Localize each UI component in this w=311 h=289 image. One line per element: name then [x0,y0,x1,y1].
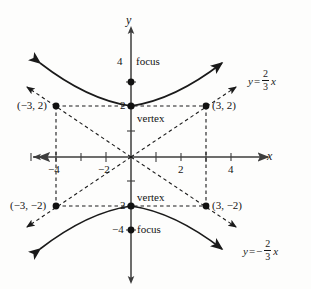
point-focus-top [128,79,135,86]
point-corner-top-left [53,103,60,110]
asymptote-equals-negative: = [249,245,255,257]
point-corner-bottom-left [53,203,60,210]
asymptote-label-positive: y = 2 3 x [248,69,276,92]
x-axis-label: x [267,150,272,162]
asymptote-lhs-negative: y [243,245,248,257]
point-label-3-minus2: (3, −2) [212,200,242,211]
asymptote-fraction-positive: 2 3 [262,69,269,92]
point-vertex-bottom [127,202,134,209]
asymptote-label-negative: y = − 2 3 x [243,239,278,262]
y-axis-label: y [126,14,131,26]
point-label-minus3-2: (−3, 2) [17,100,47,111]
point-vertex-top [127,102,134,109]
vertex-label-top: vertex [137,113,164,124]
x-tick-label-2: 2 [178,164,184,175]
point-corner-bottom-right [203,203,210,210]
point-focus-bottom [128,227,135,234]
asymptote-equals-positive: = [254,75,260,87]
asymptote-variable-negative: x [273,245,278,257]
asymptote-fraction-negative: 2 3 [264,239,271,262]
asymptote-lhs-positive: y [248,75,253,87]
hyperbola-figure: x y −4 −2 2 4 4 2 2 −4 focus focus verte… [0,0,311,289]
x-tick-label-minus4: −4 [48,164,60,175]
asymptote-denominator-positive: 3 [262,82,269,92]
y-tick-label-minus2: 2 [120,200,126,211]
x-tick-label-4: 4 [228,164,234,175]
point-label-3-2: (3, 2) [212,100,236,111]
y-axis [126,26,136,284]
x-tick-label-minus2: −2 [98,164,110,175]
vertex-label-bottom: vertex [137,192,164,203]
focus-label-top: focus [136,56,160,67]
asymptote-numerator-negative: 2 [264,239,271,249]
x-axis [31,152,268,162]
y-tick-label-2: 2 [120,100,126,111]
asymptote-sign-negative: − [256,245,262,257]
point-label-minus3-minus2: (−3, −2) [10,200,46,211]
asymptote-variable-positive: x [271,75,276,87]
asymptote-numerator-positive: 2 [262,69,269,79]
asymptote-denominator-negative: 3 [264,252,271,262]
y-tick-label-minus4: −4 [112,224,124,235]
y-tick-label-4: 4 [117,56,123,67]
point-corner-top-right [203,103,210,110]
focus-label-bottom: focus [137,224,161,235]
